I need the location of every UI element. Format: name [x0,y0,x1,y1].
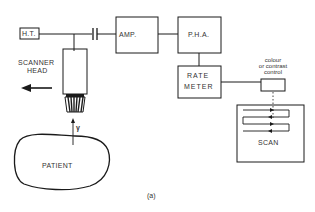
rate-meter-box [178,66,221,98]
patient-label: PATIENT [42,162,73,169]
pha-label: P.H.A. [188,31,209,38]
amp-label: AMP. [119,31,136,38]
scan-arrow-1 [270,108,274,112]
scan-arrow-2 [268,115,272,119]
figure-label: (a) [147,192,156,199]
diagram-canvas [0,0,315,212]
scan-arrow-3 [270,122,274,126]
rate-meter-label-line1: RATE [187,72,209,79]
gamma-label: γ [76,124,80,131]
collimator-icon [65,94,85,112]
scan-box [237,105,304,162]
scan-raster-path [243,110,289,131]
scanner-head-label-line1: SCANNER [18,59,54,66]
ht-label: H.T. [22,30,36,37]
scan-arrow-4 [268,129,272,133]
control-box [261,79,285,91]
scanner-head-label-line2: HEAD [27,67,48,74]
gamma-ray-arrow-icon [71,118,75,145]
control-label-line3: control [253,69,293,75]
scan-direction-arrow-icon [21,84,52,92]
scan-label: SCAN [258,139,279,146]
rate-meter-label-line2: METER [184,83,214,90]
scanner-head-body [63,49,87,94]
